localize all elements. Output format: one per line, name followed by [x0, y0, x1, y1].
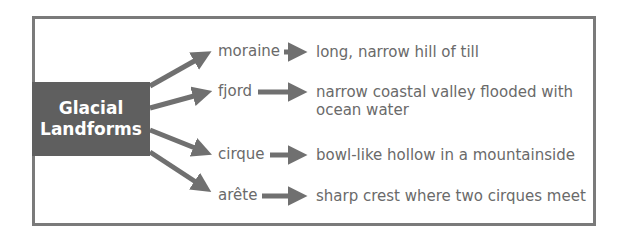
term-fjord: fjord: [218, 82, 252, 100]
definition-fjord-line1: narrow coastal valley flooded with: [316, 83, 573, 101]
arrow-to-arete-icon: [150, 152, 205, 188]
definition-moraine: long, narrow hill of till: [316, 43, 479, 61]
hub-title-line2: Landforms: [32, 119, 150, 140]
definition-cirque: bowl-like hollow in a mountainside: [316, 146, 575, 164]
definition-fjord: narrow coastal valley flooded with ocean…: [316, 83, 573, 119]
arrow-to-cirque-icon: [150, 130, 205, 152]
term-cirque: cirque: [218, 145, 265, 163]
term-arete: arête: [218, 186, 257, 204]
definition-fjord-line2: ocean water: [316, 101, 573, 119]
hub-arrows: [150, 55, 205, 188]
arrow-to-moraine-icon: [150, 55, 205, 86]
definition-arete: sharp crest where two cirques meet: [316, 187, 586, 205]
arrow-to-fjord-icon: [150, 93, 205, 108]
term-moraine: moraine: [218, 42, 280, 60]
definition-arrows: [258, 52, 300, 196]
hub-title-line1: Glacial: [32, 98, 150, 119]
hub-glacial-landforms: Glacial Landforms: [32, 82, 150, 156]
